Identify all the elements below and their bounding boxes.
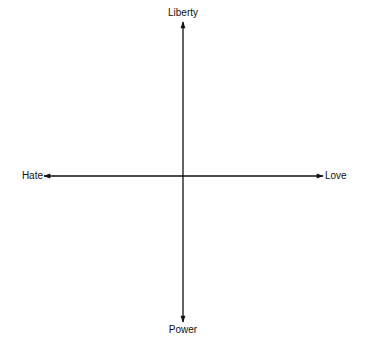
axis-label-love: Love bbox=[325, 170, 347, 182]
axis-label-hate: Hate bbox=[22, 170, 43, 182]
axes-graphic bbox=[0, 0, 367, 352]
axis-label-power: Power bbox=[169, 324, 197, 336]
axis-label-liberty: Liberty bbox=[168, 7, 198, 19]
quadrant-diagram: Liberty Power Hate Love bbox=[0, 0, 367, 352]
